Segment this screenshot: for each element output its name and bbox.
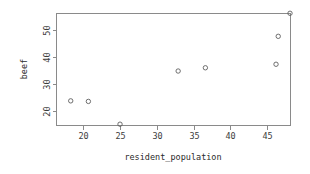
x-tick-label: 45: [262, 131, 272, 141]
scatter-plot-figure: 202530354045 20304050 resident_populatio…: [0, 0, 310, 174]
x-tick-label: 30: [152, 131, 162, 141]
y-tick-label: 30: [42, 79, 52, 89]
x-tick-label: 20: [78, 131, 88, 141]
x-tick-label: 40: [225, 131, 235, 141]
x-tick-label: 25: [115, 131, 125, 141]
y-axis-title: beef: [19, 59, 29, 79]
plot-canvas: 202530354045 20304050 resident_populatio…: [0, 0, 310, 174]
y-tick-label: 20: [42, 106, 52, 116]
x-tick-label: 35: [189, 131, 199, 141]
y-tick-label: 50: [42, 25, 52, 35]
y-tick-label: 40: [42, 52, 52, 62]
x-axis-title: resident_population: [124, 152, 221, 162]
